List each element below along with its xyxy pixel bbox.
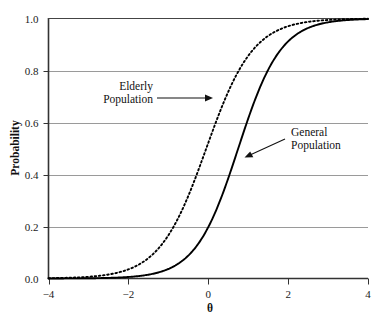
y-tick-label: 0.6 xyxy=(25,117,39,129)
annotation-elderly-line2: Population xyxy=(103,93,153,106)
x-axis-title: θ xyxy=(207,302,213,314)
x-tick-label: −2 xyxy=(123,288,135,300)
annotation-general-line2: Population xyxy=(291,139,341,152)
y-tick-label: 0.0 xyxy=(25,273,39,285)
annotation-general-line1: General xyxy=(291,126,327,138)
y-tick-label: 0.4 xyxy=(25,169,39,181)
y-tick-label: 0.2 xyxy=(25,221,39,233)
x-tick-label: 4 xyxy=(365,288,371,300)
y-axis-title: Probability xyxy=(9,120,22,176)
annotation-elderly-line1: Elderly xyxy=(119,80,153,93)
x-tick-label: −4 xyxy=(43,288,55,300)
y-tick-label: 1.0 xyxy=(25,13,39,25)
probability-curve-chart: −4−2024 0.00.20.40.60.81.0 Elderly Popul… xyxy=(0,0,379,328)
x-tick-label: 0 xyxy=(206,288,212,300)
y-tick-label: 0.8 xyxy=(25,65,39,77)
x-tick-label: 2 xyxy=(285,288,291,300)
figure-container: −4−2024 0.00.20.40.60.81.0 Elderly Popul… xyxy=(0,0,379,328)
